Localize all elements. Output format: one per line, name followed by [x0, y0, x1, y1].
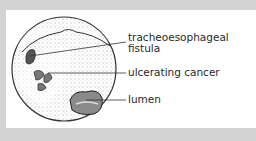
label-fistula-line2: fistula [128, 43, 229, 54]
label-lumen: lumen [128, 94, 161, 105]
figure-panel: tracheoesophageal fistula ulcerating can… [6, 10, 256, 128]
label-ulcerating-cancer: ulcerating cancer [128, 67, 220, 78]
label-fistula: tracheoesophageal fistula [128, 32, 229, 54]
